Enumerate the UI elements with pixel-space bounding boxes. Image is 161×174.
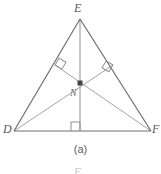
vertex-label-F: F — [152, 123, 159, 135]
altitude-from-D-line — [14, 65, 113, 131]
vertex-label-E: E — [74, 2, 81, 14]
altitude-group — [14, 19, 151, 131]
point-label-N: N — [70, 88, 77, 98]
altitude-from-F-line — [55, 65, 151, 131]
orthocenter-point-marker — [78, 81, 83, 86]
right-angle-marks-group — [55, 58, 113, 131]
right-angle-on-DF-mark — [71, 122, 80, 131]
triangle-sides-group — [14, 19, 151, 131]
geometry-figure: E D F N (a) E — [0, 0, 161, 174]
clipped-next-figure-label: E — [74, 166, 86, 174]
figure-caption: (a) — [0, 143, 161, 156]
side-EF — [80, 19, 151, 131]
vertex-label-D: D — [3, 123, 12, 135]
